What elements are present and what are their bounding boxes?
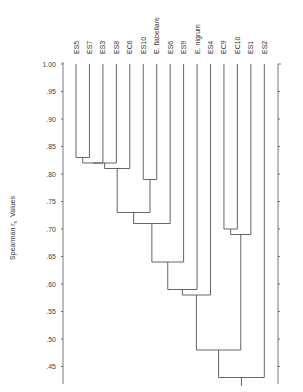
- y-axis-label: Spearman rsValues: [9, 196, 18, 260]
- y-tick-label: .45: [46, 363, 56, 370]
- y-tick-label: .75: [46, 198, 56, 205]
- leaf-label: ES4: [207, 41, 214, 54]
- y-tick-label: .80: [46, 171, 56, 178]
- svg-text:Spearman rsValues: Spearman rsValues: [9, 196, 18, 260]
- y-tick-label: .65: [46, 253, 56, 260]
- leaf-label: E. nigrum: [194, 24, 202, 54]
- leaf-label: ES3: [99, 41, 106, 54]
- leaf-labels: ES5ES7ES3ES8EC6ES10E. flabellareES6ES9E.…: [73, 17, 268, 54]
- dendrogram-figure: ES5ES7ES3ES8EC6ES10E. flabellareES6ES9E.…: [0, 0, 303, 392]
- leaf-label: ES10: [140, 37, 147, 54]
- y-axis: 1.00.95.90.85.80.75.70.65.60.55.50.45: [42, 61, 63, 385]
- y-tick-label: .70: [46, 226, 56, 233]
- y-tick-label: .60: [46, 281, 56, 288]
- dendrogram-tree: [76, 64, 264, 386]
- y-tick-label: .95: [46, 88, 56, 95]
- leaf-label: ES8: [113, 41, 120, 54]
- leaf-label: ES9: [180, 41, 187, 54]
- leaf-label: EC10: [234, 36, 241, 54]
- leaf-label: ES1: [247, 41, 254, 54]
- y-tick-label: .90: [46, 116, 56, 123]
- y-tick-label: .50: [46, 336, 56, 343]
- leaf-label: ES6: [167, 41, 174, 54]
- leaf-label: ES5: [73, 41, 80, 54]
- leaf-label: EC9: [220, 40, 227, 54]
- y-tick-label: 1.00: [42, 61, 56, 68]
- leaf-label: ES2: [261, 41, 268, 54]
- y-tick-label: .85: [46, 143, 56, 150]
- leaf-label: E. flabellare: [153, 17, 160, 54]
- leaf-label: ES7: [86, 41, 93, 54]
- right-axis: [278, 64, 281, 384]
- leaf-label: EC6: [126, 40, 133, 54]
- y-tick-label: .55: [46, 308, 56, 315]
